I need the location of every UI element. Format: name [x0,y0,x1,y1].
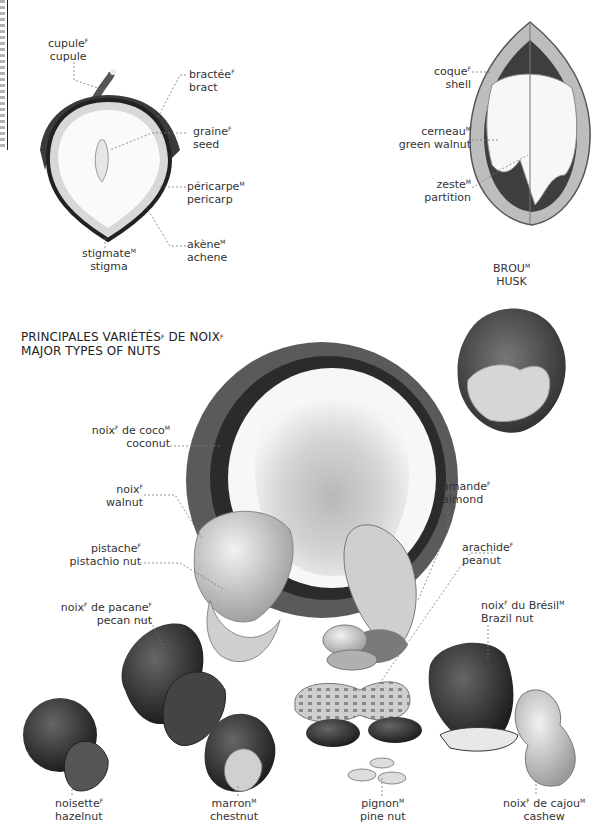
nut-illustrations [0,0,603,826]
pine-nut-illustration [348,758,406,784]
label-coconut: noixF de cocoM coconut [92,424,170,450]
hazelnut-section-illustration [40,69,180,240]
label-hazelnut: noisetteF hazelnut [55,797,103,823]
pecan-illustration [122,624,226,746]
label-stigma: stigmateM stigma [82,247,136,273]
hazelnut-illustration [23,698,108,791]
label-peanut: arachideF peanut [462,541,513,567]
label-almond: amandeF almond [442,480,490,506]
walnut-husk-illustration [458,309,566,433]
major-types-heading: PRINCIPALES VARIÉTÉSF DE NOIXF MAJOR TYP… [21,330,224,358]
label-green-walnut: cerneauM green walnut [399,125,471,151]
label-partition: zesteM partition [424,178,471,204]
peanut-illustration [295,682,422,747]
label-bract: bractéeF bract [189,68,235,94]
label-chestnut: marronM chestnut [210,797,258,823]
label-shell: coqueF shell [434,65,471,91]
label-pericarp: péricarpeM pericarp [187,180,245,206]
label-pistachio: pistacheF pistachio nut [70,542,141,568]
label-achene: akèneM achene [187,238,227,264]
label-walnut: noixF walnut [106,483,143,509]
walnut-illustration [194,511,293,661]
cashew-illustration [515,690,575,786]
label-cupule: cupuleF cupule [48,37,88,63]
label-pine-nut: pignonM pine nut [360,797,406,823]
label-pecan: noixF de pacaneF pecan nut [61,601,152,627]
brazil-nut-illustration [429,643,518,751]
label-husk: BROUM HUSK [493,262,530,288]
label-seed: graineF seed [193,125,232,151]
walnut-section-illustration [470,22,590,225]
label-cashew: noixF de cajouM cashew [503,797,585,823]
label-brazil-nut: noixF du BrésilM Brazil nut [481,599,564,625]
